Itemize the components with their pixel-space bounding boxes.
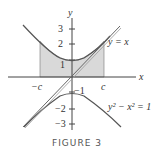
y-axis-label: y — [67, 7, 73, 18]
figure-diagram: y x 3 2 1 −1 −2 −3 −c c y = x y² − x² = … — [0, 0, 163, 153]
asymptote-label: y = x — [107, 36, 129, 47]
y-tick-neg1: −1 — [74, 85, 85, 96]
hyperbola-label: y² − x² = 1 — [107, 101, 151, 112]
x-tick-c: c — [101, 81, 106, 92]
y-tick-1: 1 — [60, 59, 65, 70]
y-tick-neg2: −2 — [55, 103, 66, 114]
y-tick-3: 3 — [58, 23, 63, 34]
y-tick-2: 2 — [58, 38, 63, 49]
y-tick-neg3: −3 — [55, 118, 66, 129]
figure-caption: FIGURE 3 — [52, 138, 102, 148]
x-tick-neg-c: −c — [31, 81, 43, 92]
x-axis-label: x — [138, 71, 144, 82]
